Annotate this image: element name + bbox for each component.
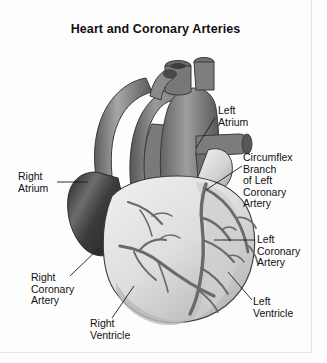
aorta-stump-lumen <box>170 63 186 69</box>
label-left-coronary: Left Coronary Artery <box>257 234 300 269</box>
label-left-atrium: Left Atrium <box>218 105 248 128</box>
leader-right-coronary <box>70 248 99 276</box>
label-right-ventricle: Right Ventricle <box>90 318 130 341</box>
arch-branch-cut <box>164 70 177 78</box>
pulmonary-stump-neck <box>194 62 214 90</box>
label-left-ventricle: Left Ventricle <box>253 296 293 319</box>
heart-anatomy-figure: Heart and Coronary Arteries <box>0 0 327 363</box>
label-circumflex: Circumflex Branch of Left Coronary Arter… <box>243 152 293 210</box>
label-right-atrium: Right Atrium <box>18 171 48 194</box>
label-right-coronary: Right Coronary Artery <box>31 272 74 307</box>
